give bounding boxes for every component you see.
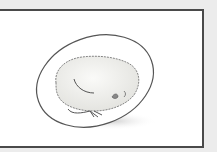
illustration-frame bbox=[0, 9, 204, 148]
chick-in-egg-illustration bbox=[0, 11, 202, 146]
